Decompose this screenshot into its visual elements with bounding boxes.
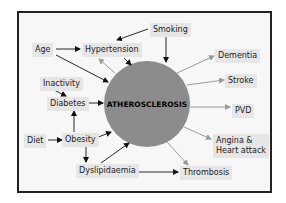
atherosclerosis-node: ATHEROSCLEROSIS xyxy=(104,61,190,147)
node-thrombosis: Thrombosis xyxy=(180,166,232,180)
angina-line1: Angina & xyxy=(216,136,266,146)
node-diabetes: Diabetes xyxy=(47,97,89,111)
node-smoking: Smoking xyxy=(150,23,191,37)
angina-line2: Heart attack xyxy=(216,146,266,156)
node-obesity: Obesity xyxy=(62,133,99,147)
node-dyslipidaemia: Dyslipidaemia xyxy=(76,164,139,178)
node-dementia: Dementia xyxy=(215,49,260,63)
node-hypertension: Hypertension xyxy=(82,43,142,57)
node-stroke: Stroke xyxy=(225,74,257,88)
node-pvd: PVD xyxy=(232,104,254,118)
node-age: Age xyxy=(32,43,53,57)
node-inactivity: Inactivity xyxy=(40,77,83,91)
center-label: ATHEROSCLEROSIS xyxy=(107,100,187,109)
node-angina-heart-attack: Angina & Heart attack xyxy=(213,134,269,158)
node-diet: Diet xyxy=(24,134,46,148)
